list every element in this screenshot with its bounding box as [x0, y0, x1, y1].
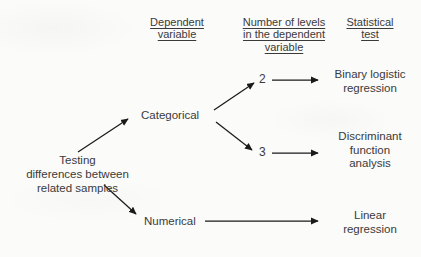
header-statistical-test: Statistical test — [324, 16, 416, 41]
node-linear-regression: Linear regression — [322, 209, 418, 236]
diagram-canvas: Dependent variable Number of levels in t… — [0, 0, 421, 257]
node-root: Testing differences between related samp… — [0, 154, 155, 195]
outcome-line-2: regression — [322, 223, 418, 237]
edge-categorical-to-2 — [214, 83, 254, 110]
node-levels-2: 2 — [259, 73, 266, 86]
header-number-of-levels: Number of levels in the dependent variab… — [229, 16, 339, 53]
header-line-2: in the dependent — [229, 28, 339, 40]
header-line-3: variable — [229, 41, 339, 53]
header-line-1: Dependent — [132, 16, 222, 28]
header-line-2: variable — [132, 28, 222, 40]
outcome-line-3: analysis — [322, 157, 418, 171]
node-categorical: Categorical — [141, 109, 199, 122]
node-binary-logistic-regression: Binary logistic regression — [322, 68, 418, 95]
node-numerical: Numerical — [144, 215, 196, 228]
root-line-3: related samples — [0, 182, 155, 196]
header-line-2: test — [324, 28, 416, 40]
outcome-line-1: Discriminant — [322, 130, 418, 144]
header-dependent-variable: Dependent variable — [132, 16, 222, 41]
node-discriminant-function-analysis: Discriminant function analysis — [322, 130, 418, 171]
outcome-line-1: Linear — [322, 209, 418, 223]
root-line-2: differences between — [0, 168, 155, 182]
root-line-1: Testing — [0, 154, 155, 168]
outcome-line-2: function — [322, 144, 418, 158]
header-line-1: Statistical — [324, 16, 416, 28]
header-line-1: Number of levels — [229, 16, 339, 28]
outcome-line-2: regression — [322, 82, 418, 96]
outcome-line-1: Binary logistic — [322, 68, 418, 82]
edge-root-to-categorical — [78, 119, 128, 152]
edge-categorical-to-3 — [216, 122, 252, 150]
node-levels-3: 3 — [259, 146, 266, 159]
